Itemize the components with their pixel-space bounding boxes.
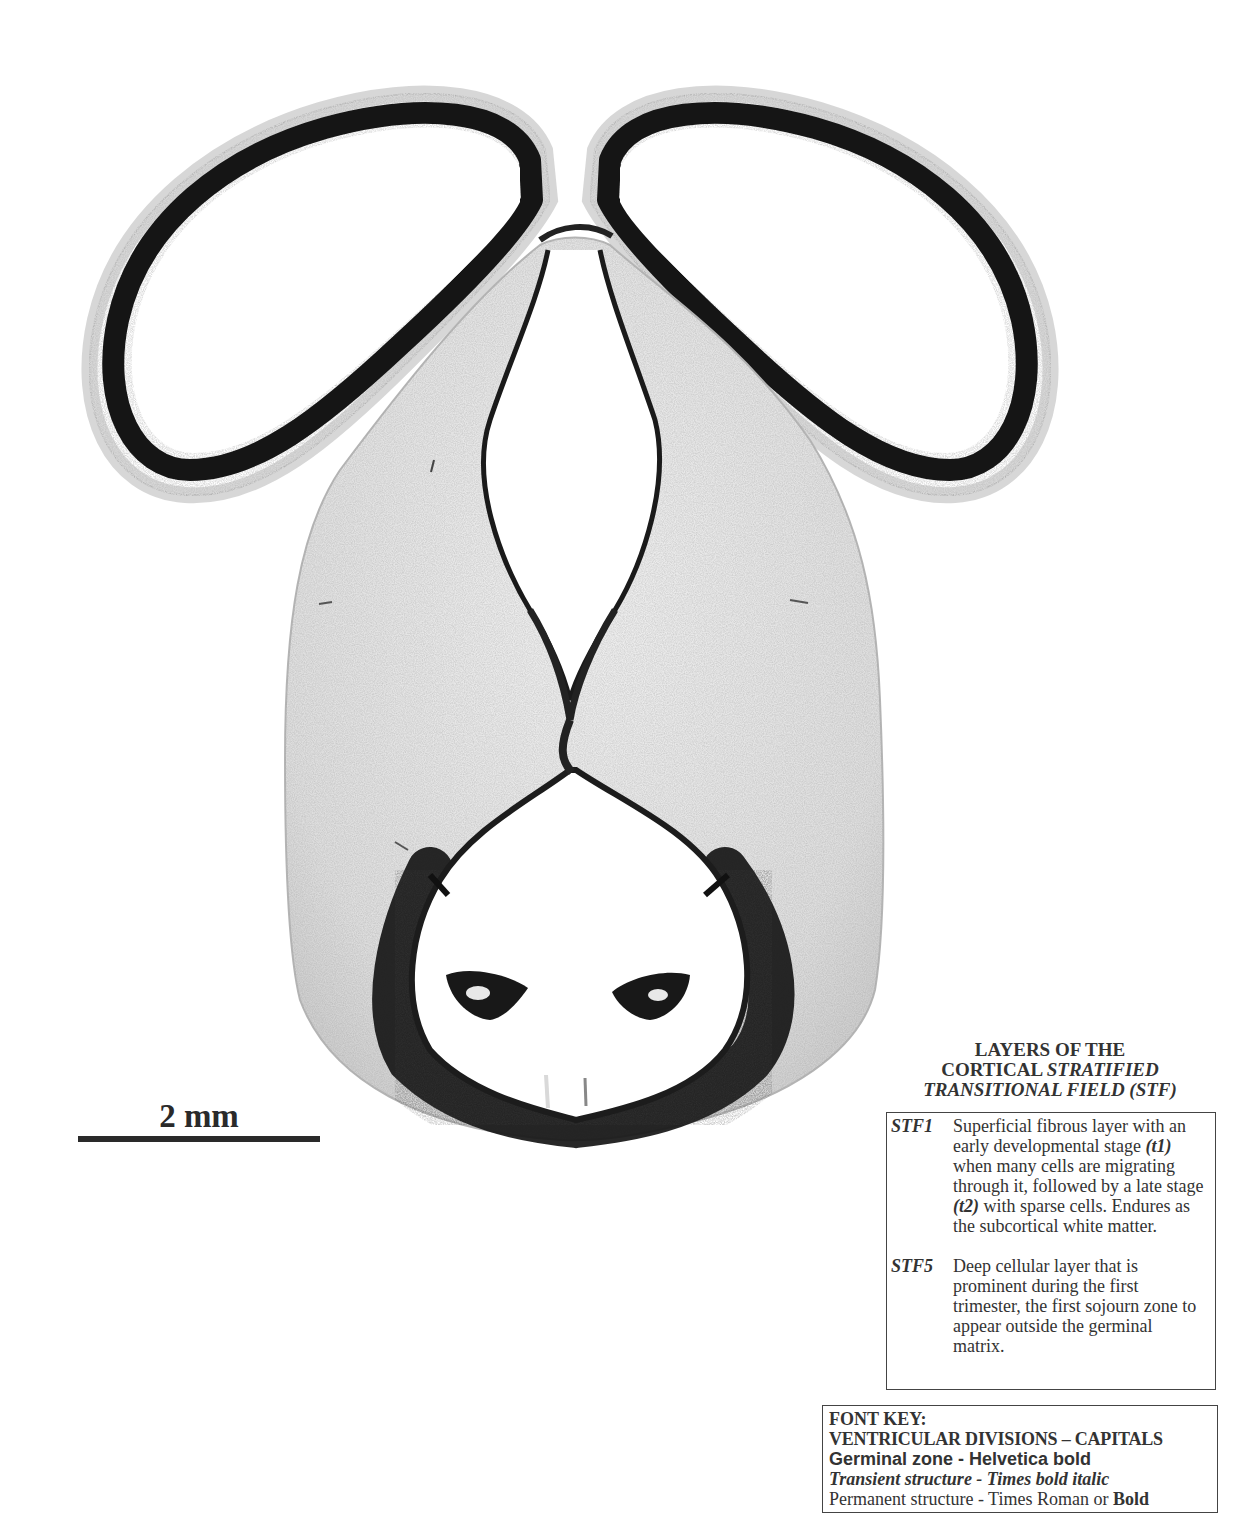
scale-bar-line bbox=[78, 1136, 320, 1142]
font-key-germinal: Germinal zone - Helvetica bold bbox=[829, 1449, 1211, 1469]
legend-code: STF5 bbox=[891, 1256, 953, 1356]
legend-title-line1: LAYERS OF THE bbox=[880, 1040, 1220, 1060]
font-key-transient: Transient structure - Times bold italic bbox=[829, 1469, 1211, 1489]
legend-title-line2: CORTICAL STRATIFIED bbox=[880, 1060, 1220, 1080]
legend-entry-stf1: STF1 Superficial fibrous layer with an e… bbox=[891, 1116, 1207, 1236]
font-key-permanent: Permanent structure - Times Roman or Bol… bbox=[829, 1489, 1211, 1509]
legend-title-line3: TRANSITIONAL FIELD (STF) bbox=[880, 1080, 1220, 1100]
stage-term-t2: (t2) bbox=[953, 1196, 979, 1216]
font-key-title: FONT KEY: bbox=[829, 1409, 1211, 1429]
font-key-ventricular: VENTRICULAR DIVISIONS – CAPITALS bbox=[829, 1429, 1211, 1449]
font-key-permanent-bold: Bold bbox=[1113, 1489, 1149, 1509]
font-key-box: FONT KEY: VENTRICULAR DIVISIONS – CAPITA… bbox=[822, 1405, 1218, 1513]
scale-bar-label: 2 mm bbox=[78, 1098, 320, 1134]
legend-description: Deep cellular layer that is prominent du… bbox=[953, 1256, 1207, 1356]
desc-text: when many cells are migrating through it… bbox=[953, 1156, 1203, 1196]
legend-title-line2-italic: STRATIFIED bbox=[1047, 1059, 1159, 1080]
legend-title: LAYERS OF THE CORTICAL STRATIFIED TRANSI… bbox=[880, 1040, 1220, 1100]
legend-title-line2-plain: CORTICAL bbox=[941, 1059, 1046, 1080]
stage-term-t1: (t1) bbox=[1145, 1136, 1171, 1156]
legend-description: Superficial fibrous layer with an early … bbox=[953, 1116, 1207, 1236]
brain-section-image bbox=[0, 0, 1243, 1200]
desc-text: with sparse cells. Endures as the subcor… bbox=[953, 1196, 1190, 1236]
scale-bar: 2 mm bbox=[78, 1098, 320, 1142]
legend-box: STF1 Superficial fibrous layer with an e… bbox=[886, 1112, 1216, 1390]
legend-code: STF1 bbox=[891, 1116, 953, 1236]
font-key-permanent-plain: Permanent structure - Times Roman or bbox=[829, 1489, 1113, 1509]
legend-title-line3-italic: TRANSITIONAL FIELD (STF) bbox=[923, 1079, 1177, 1100]
legend-entry-stf5: STF5 Deep cellular layer that is promine… bbox=[891, 1256, 1207, 1356]
